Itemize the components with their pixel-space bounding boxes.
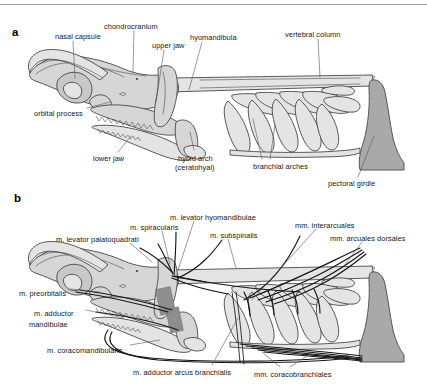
label-vertebral-column: vertebral column <box>285 31 340 40</box>
label-upper-jaw: upper jaw <box>152 42 185 51</box>
label-m-coracomandibularis: m. coracomandibularis <box>47 347 122 356</box>
label-ceratohyal: (ceratohyal) <box>175 164 215 173</box>
label-m-subspinalis: m. subspinalis <box>210 232 258 241</box>
label-m-levator-palatoquadrati: m. levator palatoquadrati <box>56 236 139 245</box>
label-m-spiracularis: m. spiracularis <box>130 224 178 233</box>
label-orbital-process: orbital process <box>34 110 83 119</box>
label-m-levator-hyomandibulae: m. levator hyomandibulae <box>170 214 256 223</box>
panel-letter-a: a <box>12 26 18 38</box>
label-m-adductor-mandibulae-1: m. adductor <box>34 310 74 319</box>
label-mm-arcuales-dorsales: mm. arcuales dorsales <box>330 235 405 244</box>
label-lower-jaw: lower jaw <box>93 155 124 164</box>
pectoral-girdle-shape-b <box>359 272 404 362</box>
label-hyomandibula: hyomandibula <box>190 34 237 43</box>
label-chondrocranium: chondrocranium <box>104 23 158 32</box>
label-nasal-capsule: nasal capsule <box>55 33 101 42</box>
label-m-adductor-mandibulae-2: mandibulae <box>29 321 68 330</box>
panel-letter-b: b <box>14 192 21 204</box>
branchial-arches-shape <box>224 86 360 158</box>
label-pectoral-girdle: pectoral girdle <box>328 180 375 189</box>
anatomical-figure: .out { fill:none; stroke:#3a3a3a; stroke… <box>0 0 427 388</box>
label-branchial-arches: branchial arches <box>253 163 308 172</box>
nasal-capsule-shape <box>57 72 92 103</box>
branchial-arches-shape-b <box>224 278 360 350</box>
panel-a-illustration <box>28 31 404 177</box>
label-mm-interarcuales: mm. interarcuales <box>295 222 355 231</box>
label-mm-coracobranchiales: mm. coracobranchiales <box>254 371 331 380</box>
label-m-preorbitalis: m. preorbitalis <box>19 290 66 299</box>
label-m-adductor-arcus-branchialis: m. adductor arcus branchialis <box>133 369 231 378</box>
